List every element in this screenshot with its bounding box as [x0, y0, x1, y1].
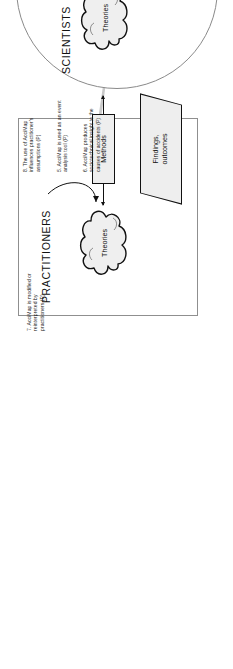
annotation-8: 8. The use of AcciMap influences practit…: [22, 68, 41, 172]
diagram-stage: PRACTITIONERS Theories Methods Findings,…: [0, 0, 233, 436]
annotation-6-line-3: causes of accidents (P): [95, 64, 101, 172]
annotation-6: 6. AcciMap produces sociotechnical insig…: [82, 64, 101, 172]
practitioners-findings-label-2: outcomes: [161, 133, 170, 164]
practitioners-arrow-methods-to-findings: [103, 96, 104, 114]
scientists-theories-cloud: Theories: [79, 0, 131, 55]
annotation-5: 5. AcciMap is used as an event analysis …: [56, 64, 69, 172]
figure-rotation-wrapper: PRACTITIONERS Theories Methods Findings,…: [0, 0, 233, 669]
annotation-7: 7. AcciMap is modified or reinterpreted …: [26, 225, 45, 331]
annotation-7-line-3: practitioners (P): [39, 225, 45, 331]
annotation-8-line-3: assumptions (P): [35, 68, 41, 172]
scientists-theories-label: Theories: [79, 0, 131, 55]
annotation-5-line-2: analysis tool (P): [62, 64, 68, 172]
practitioners-findings-node: Findings, outcomes: [140, 99, 182, 199]
practitioners-feedback-loop-arrow: [44, 180, 104, 240]
